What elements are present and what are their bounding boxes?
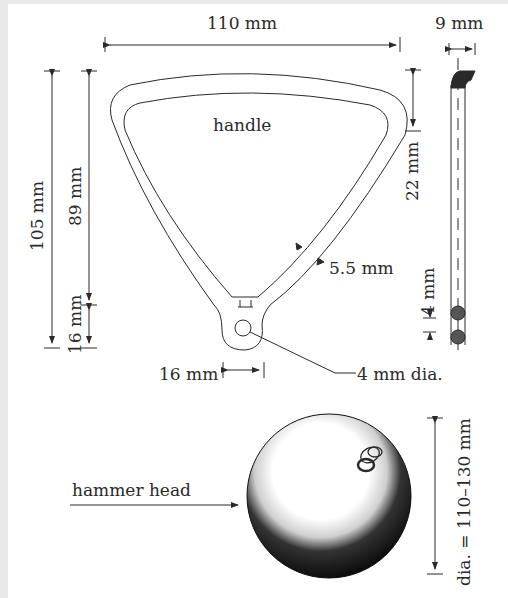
hole-diameter-label: 4 mm dia. [357,366,443,383]
handle-label: handle [213,117,271,134]
width-dimension-line [105,37,400,52]
ball-diameter-label: dia. = 110–130 mm [456,418,473,586]
hammer-ball [247,414,411,578]
handle-hole [235,320,251,336]
handle-width-label: 110 mm [207,15,277,32]
inner-height-label: 89 mm [67,167,84,226]
grip-depth-label: 22 mm [404,142,421,201]
grip-thickness-label: 5.5 mm [329,260,394,277]
side-width-label: 9 mm [435,15,483,32]
hammer-head-label: hammer head [72,482,191,499]
diagram-canvas: 110 mm 9 mm handle 105 mm 89 mm 16 mm 22… [8,4,508,598]
total-height-label: 105 mm [29,181,46,251]
loop-height-label: 16 mm [67,295,84,354]
loop-width-label: 16 mm [159,366,218,383]
loop-width-dimension [223,362,264,378]
wire-spacing-label: 4 mm [420,268,437,316]
ball-diameter-dimension [427,418,443,574]
